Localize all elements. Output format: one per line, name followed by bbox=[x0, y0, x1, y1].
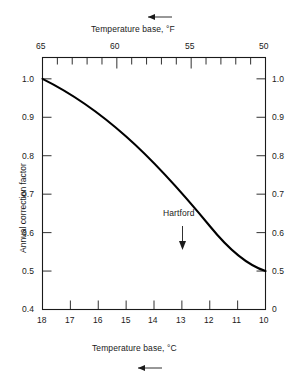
plot-frame bbox=[43, 58, 266, 310]
left-tick-label-0-4: 0.4 bbox=[22, 304, 34, 314]
bottom-tick-label-15: 15 bbox=[121, 315, 131, 325]
left-axis-ticks bbox=[43, 79, 52, 271]
right-tick-label-0-9: 0.9 bbox=[272, 112, 284, 122]
hartford-annotation-label: Hartford bbox=[163, 208, 195, 218]
left-tick-label-0-8: 0.8 bbox=[22, 151, 34, 161]
left-tick-label-0-9: 0.9 bbox=[22, 112, 34, 122]
top-tick-label-50: 50 bbox=[259, 41, 269, 51]
right-tick-label-0-5: 0.5 bbox=[272, 266, 284, 276]
bottom-tick-label-18: 18 bbox=[37, 315, 47, 325]
bottom-tick-label-17: 17 bbox=[65, 315, 75, 325]
top-tick-label-60: 60 bbox=[110, 41, 120, 51]
bottom-tick-label-16: 16 bbox=[93, 315, 103, 325]
bottom-tick-label-12: 12 bbox=[204, 315, 214, 325]
chart-canvas bbox=[0, 0, 308, 386]
right-axis-ticks bbox=[257, 79, 266, 271]
bottom-tick-label-10: 10 bbox=[259, 315, 269, 325]
bottom-direction-arrow bbox=[138, 365, 162, 371]
top-axis-title: Temperature base, °F bbox=[91, 24, 175, 34]
right-tick-label-1-0: 1.0 bbox=[272, 74, 284, 84]
left-axis-title: Annual correction factor bbox=[18, 163, 28, 253]
bottom-axis-title: Temperature base, °C bbox=[92, 343, 177, 353]
hartford-annotation-arrow bbox=[179, 226, 186, 250]
top-tick-label-65: 65 bbox=[36, 41, 46, 51]
top-direction-arrow bbox=[148, 14, 172, 20]
bottom-tick-label-11: 11 bbox=[232, 315, 241, 325]
right-tick-label-0-6: 0.6 bbox=[272, 228, 284, 238]
top-tick-label-55: 55 bbox=[185, 41, 195, 51]
bottom-tick-label-14: 14 bbox=[148, 315, 158, 325]
bottom-tick-label-13: 13 bbox=[176, 315, 186, 325]
correction-factor-curve bbox=[43, 79, 266, 271]
right-tick-label-0-7: 0.7 bbox=[272, 189, 284, 199]
bottom-axis-ticks bbox=[70, 301, 237, 310]
top-axis-ticks bbox=[57, 58, 250, 69]
chart-figure: Temperature base, °F 65 60 55 50 1.0 0.9… bbox=[0, 0, 308, 386]
right-tick-label-0-8: 0.8 bbox=[272, 151, 284, 161]
left-tick-label-1-0: 1.0 bbox=[22, 74, 34, 84]
right-tick-label-0: 0 bbox=[272, 304, 277, 314]
left-tick-label-0-5: 0.5 bbox=[22, 266, 34, 276]
